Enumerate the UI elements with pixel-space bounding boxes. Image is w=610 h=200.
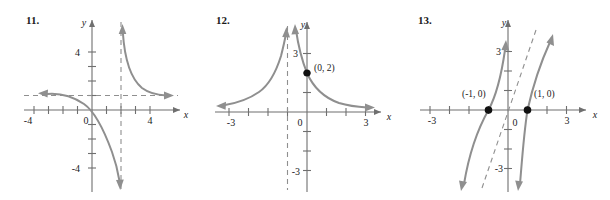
curve-arrowhead-upleft xyxy=(282,27,290,38)
y-axis-label: y xyxy=(300,19,306,30)
curve-arrowhead-left xyxy=(38,89,48,97)
figure-panel-11: 11. xyxy=(0,0,203,200)
curve-arrowhead-up xyxy=(119,24,127,34)
y-axis-label: y xyxy=(501,17,507,28)
x-axis-label: x xyxy=(592,109,598,120)
exercise-figure-row: 11. xyxy=(0,0,610,200)
curve-branch-upper-right xyxy=(123,32,166,96)
curve-branch-left xyxy=(225,36,286,105)
point-marker-1-0 xyxy=(524,106,532,114)
curve-arrowhead-right-down xyxy=(515,181,523,191)
point-marker-0-2 xyxy=(303,69,310,76)
x-tick-label-neg4: -4 xyxy=(24,115,32,126)
y-axis-arrowhead xyxy=(89,20,95,27)
y-tick-label-neg3: -3 xyxy=(495,163,503,174)
x-tick-label-pos4: 4 xyxy=(148,115,153,126)
graph-13: (-1, 0) (1, 0) -3 3 0 3 -3 x y xyxy=(406,0,610,200)
y-tick-label-pos3: 3 xyxy=(293,48,298,59)
graph-12: (0, 2) -3 3 0 3 -3 x y xyxy=(203,0,406,200)
curve-arrowhead-down xyxy=(116,179,124,190)
x-tick-label-pos3: 3 xyxy=(364,117,369,128)
x-tick-label-pos3: 3 xyxy=(565,115,570,126)
origin-label: 0 xyxy=(84,115,89,126)
x-axis-label: x xyxy=(183,109,189,120)
y-tick-label-pos4: 4 xyxy=(75,47,80,58)
point-label-1-0: (1, 0) xyxy=(534,89,555,100)
x-tick-label-neg3: -3 xyxy=(227,117,235,128)
y-tick-label-neg4: -4 xyxy=(72,163,80,174)
y-tick-label-neg3: -3 xyxy=(292,166,300,177)
origin-label: 0 xyxy=(298,117,303,128)
figure-panel-13: 13. xyxy=(406,0,609,200)
figure-panel-12: 12. xyxy=(203,0,406,200)
curve-branch-lower-left xyxy=(47,94,120,181)
curve-arrowhead-right-up xyxy=(547,34,555,46)
x-tick-label-neg3: -3 xyxy=(428,115,436,126)
curve-arrowhead-left-down xyxy=(459,180,467,191)
curve-arrowhead-left xyxy=(216,102,226,110)
x-axis-label: x xyxy=(386,111,392,122)
point-marker-neg1-0 xyxy=(485,106,493,114)
curve-arrowhead-upright xyxy=(291,24,299,34)
y-tick-label-pos3: 3 xyxy=(496,46,501,57)
point-label-0-2: (0, 2) xyxy=(314,63,335,74)
curve-branch-right xyxy=(520,42,550,184)
x-axis-arrowhead xyxy=(173,107,180,113)
point-label-neg1-0: (-1, 0) xyxy=(462,89,486,100)
curve-arrowhead-right xyxy=(365,104,375,112)
graph-11: -4 4 0 4 -4 x y xyxy=(0,0,203,200)
curve-arrowhead-right xyxy=(164,92,174,100)
x-axis-arrowhead xyxy=(374,109,381,115)
y-axis-label: y xyxy=(81,17,87,28)
origin-label: 0 xyxy=(513,117,518,128)
x-axis-arrowhead xyxy=(579,107,586,113)
